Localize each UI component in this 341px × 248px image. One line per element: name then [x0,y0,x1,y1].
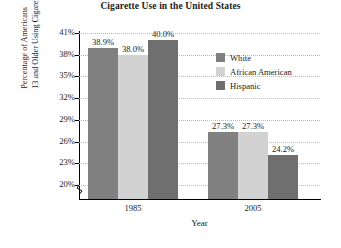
bar[interactable] [148,40,178,199]
legend-label: Hispanic [230,81,261,91]
y-axis-tick [75,33,79,34]
bar[interactable] [238,132,268,199]
axis-break-icon [76,185,83,194]
legend-swatch [216,81,225,90]
legend-swatch [216,53,225,62]
y-axis-tick-label: 32% [45,92,75,102]
x-axis-line [79,199,321,200]
chart-title: Cigarette Use in the United States [0,1,341,11]
bar[interactable] [268,155,298,199]
y-axis-title: Percentage of Americans 13 and Older Usi… [17,0,43,127]
gridline [79,33,320,34]
bar[interactable] [208,132,238,199]
bar-chart: Cigarette Use in the United States Perce… [0,0,341,248]
y-axis-title-line-1: Percentage of Americans [19,0,30,89]
bar[interactable] [118,55,148,199]
bar[interactable] [88,48,118,199]
y-axis-tick-label: 35% [45,70,75,80]
y-axis-tick-label: 20% [45,179,75,189]
y-axis-tick [75,55,79,56]
legend-label: African American [230,67,292,77]
legend-label: White [230,53,251,63]
y-axis-tick [75,120,79,121]
legend-swatch [216,67,225,76]
y-axis-tick-label: 41% [45,27,75,37]
bar-value-label: 24.2% [262,144,304,154]
legend-item[interactable]: African American [216,66,292,77]
y-axis-tick [75,185,79,186]
bar-value-label: 27.3% [232,121,274,131]
y-axis-line [79,31,80,200]
y-axis-tick-label: 23% [45,157,75,167]
y-axis-tick [75,76,79,77]
y-axis-tick [75,98,79,99]
x-axis-title: Year [79,218,320,228]
y-axis-tick-label: 38% [45,49,75,59]
x-axis-tick-label: 2005 [198,203,308,213]
y-axis-tick [75,142,79,143]
y-axis-tick [75,163,79,164]
y-axis-title-line-2: 13 and Older Using Cigarettes [30,0,41,89]
legend-item[interactable]: Hispanic [216,80,292,91]
y-axis-tick-label: 26% [45,136,75,146]
bar-value-label: 40.0% [142,29,184,39]
legend-item[interactable]: White [216,52,292,63]
x-axis-tick-label: 1985 [78,203,188,213]
y-axis-tick-label: 29% [45,114,75,124]
legend: WhiteAfrican AmericanHispanic [216,52,292,91]
